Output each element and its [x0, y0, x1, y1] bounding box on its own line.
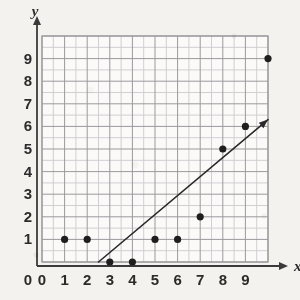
y-axis-label: y [30, 3, 39, 19]
y-tick-label-1: 1 [24, 230, 32, 247]
x-tick-label-4: 4 [128, 271, 137, 288]
y-tick-label-7: 7 [24, 95, 32, 112]
graph-canvas: 0123456789 0123456789 x y [0, 0, 300, 300]
y-tick-label-2: 2 [24, 208, 32, 225]
y-axis-tick-labels: 0123456789 [24, 50, 33, 288]
data-point [174, 236, 181, 243]
y-tick-label-6: 6 [24, 117, 32, 134]
data-point [84, 236, 91, 243]
x-tick-label-7: 7 [196, 271, 204, 288]
scatter-plot-figure: 0123456789 0123456789 x y [0, 0, 300, 300]
x-tick-label-9: 9 [241, 271, 249, 288]
x-tick-label-8: 8 [219, 271, 227, 288]
y-tick-label-3: 3 [24, 185, 32, 202]
x-tick-label-2: 2 [83, 271, 91, 288]
data-point [129, 258, 136, 265]
data-point [219, 145, 226, 152]
data-point [197, 213, 204, 220]
x-tick-label-6: 6 [173, 271, 181, 288]
y-tick-label-5: 5 [24, 140, 32, 157]
x-tick-label-1: 1 [60, 271, 68, 288]
data-point [61, 236, 68, 243]
x-tick-label-0: 0 [38, 271, 46, 288]
y-tick-label-4: 4 [24, 163, 33, 180]
x-axis-tick-labels: 0123456789 [38, 271, 250, 288]
x-axis-arrowhead [279, 262, 288, 270]
y-tick-label-9: 9 [24, 50, 32, 67]
y-tick-label-0: 0 [24, 271, 32, 288]
x-axis-label: x [293, 258, 300, 274]
x-tick-label-5: 5 [151, 271, 159, 288]
data-point [264, 55, 271, 62]
x-tick-label-3: 3 [106, 271, 114, 288]
data-point [106, 258, 113, 265]
data-point [151, 236, 158, 243]
y-tick-label-8: 8 [24, 72, 32, 89]
data-point [242, 123, 249, 130]
